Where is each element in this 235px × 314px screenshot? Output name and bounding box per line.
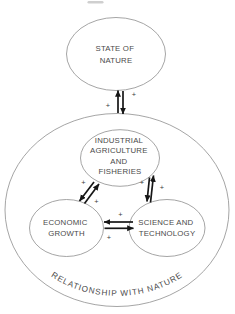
plus-sign: + [81,178,85,187]
plus-sign: + [160,183,164,192]
relationship-with-nature-label: RELATIONSHIP WITH NATURE [50,270,184,298]
plus-sign: + [94,197,98,206]
plus-sign: + [107,233,111,242]
plus-sign: + [140,178,144,187]
state-of-nature-ellipse [67,18,166,91]
edge-industrial-science: + + [140,176,164,203]
node-industrial-agriculture-fisheries: INDUSTRIAL AGRICULTURE AND FISHERIES [81,130,160,187]
edge-nature-relationship: + + [106,90,136,114]
plus-sign: + [132,90,136,99]
arrow-up-to-industrial [151,176,154,203]
node-economic-growth: ECONOMIC GROWTH [30,200,104,257]
arrow-down-to-science-technology [147,178,150,202]
plus-sign: + [106,101,110,110]
science-technology-ellipse [129,200,205,257]
economic-growth-ellipse [30,200,104,257]
plus-sign: + [118,210,122,219]
node-science-technology: SCIENCE AND TECHNOLOGY [129,200,205,257]
diagram-canvas: STATE OF NATURE INDUSTRIAL AGRICULTURE A… [0,0,235,314]
node-state-of-nature: STATE OF NATURE [67,18,166,91]
cropped-text-fragment [88,1,104,4]
relationship-with-nature-diagram: STATE OF NATURE INDUSTRIAL AGRICULTURE A… [0,0,235,314]
edge-industrial-economic: + + [80,178,100,206]
